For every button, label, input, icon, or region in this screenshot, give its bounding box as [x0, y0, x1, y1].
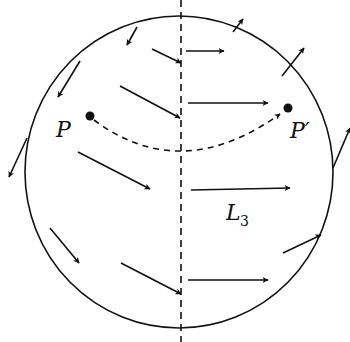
arrow-4	[58, 61, 80, 97]
dashed-trajectory-p-to-p-prime	[94, 114, 280, 151]
arrow-10	[78, 152, 150, 189]
label-l-subscript: 3	[240, 213, 249, 229]
arrow-11	[191, 188, 290, 190]
vector-arrows	[9, 19, 350, 294]
arrow-6	[120, 86, 180, 118]
point-p-prime-dot	[284, 104, 293, 113]
label-p: P	[55, 117, 72, 142]
arrow-12	[50, 228, 79, 263]
label-l: L	[225, 200, 241, 225]
arrow-5	[282, 48, 304, 76]
points	[86, 104, 293, 121]
arrow-14	[121, 263, 181, 294]
arrow-9	[333, 128, 350, 168]
vector-field-figure: P P′ L 3	[0, 0, 350, 342]
arrow-0	[127, 27, 137, 45]
arrow-1	[152, 49, 181, 63]
label-p-prime: P′	[289, 118, 310, 143]
label-l3: L 3	[225, 200, 249, 229]
point-p-dot	[86, 112, 95, 121]
